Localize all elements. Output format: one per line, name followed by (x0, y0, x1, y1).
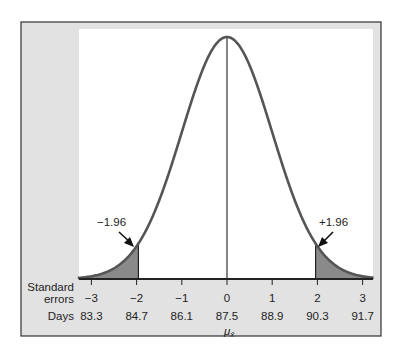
days-tick-label: 83.3 (80, 310, 102, 322)
se-tick-label: 0 (224, 292, 230, 304)
days-tick-label: 91.7 (351, 310, 373, 322)
days-tick-label: 90.3 (306, 310, 328, 322)
days-tick-label: 88.9 (261, 310, 283, 322)
left-critical-label: −1.96 (97, 216, 126, 228)
normal-distribution-chart: Standard errors Days −3−2−10123 83.384.7… (0, 0, 401, 355)
se-tick-label: −1 (175, 292, 188, 304)
days-tick-label: 84.7 (125, 310, 147, 322)
se-tick-label: −2 (130, 292, 143, 304)
se-tick-label: −3 (85, 292, 98, 304)
se-tick-label: 1 (269, 292, 275, 304)
se-tick-label: 3 (359, 292, 365, 304)
row-label-days: Days (48, 310, 74, 322)
se-tick-label: 2 (314, 292, 320, 304)
plot-area (79, 29, 373, 279)
row-label-errors: errors (44, 293, 74, 305)
right-critical-label: +1.96 (319, 216, 348, 228)
row-label-standard: Standard (27, 281, 74, 293)
days-tick-label: 87.5 (216, 310, 238, 322)
days-tick-label: 86.1 (171, 310, 193, 322)
